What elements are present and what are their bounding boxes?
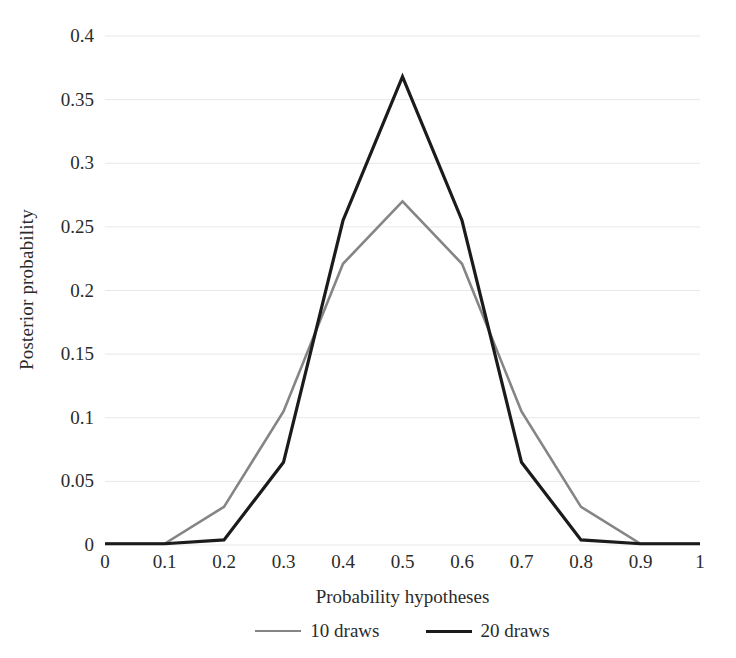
chart-container: Posterior probability 00.050.10.150.20.2… [0,0,736,658]
chart-legend: 10 draws20 draws [105,620,700,642]
series-line [105,201,700,543]
x-tick-label: 0.6 [450,551,474,573]
x-axis-tick-labels: 00.10.20.30.40.50.60.70.80.91 [105,551,700,581]
y-tick-label: 0.4 [0,25,103,47]
y-tick-label: 0 [0,534,103,556]
x-tick-label: 1 [695,551,705,573]
x-tick-label: 0.2 [212,551,236,573]
y-tick-label: 0.1 [0,407,103,429]
x-tick-label: 0.9 [629,551,653,573]
legend-entry[interactable]: 20 draws [426,620,550,642]
x-tick-label: 0.5 [391,551,415,573]
y-tick-label: 0.15 [0,343,103,365]
x-tick-label: 0.7 [510,551,534,573]
x-tick-label: 0.8 [569,551,593,573]
x-tick-label: 0.4 [331,551,355,573]
y-tick-label: 0.25 [0,216,103,238]
legend-line-icon [255,630,301,632]
legend-label: 10 draws [310,620,379,642]
x-axis-title: Probability hypotheses [105,586,700,608]
series-line [105,77,700,544]
y-tick-label: 0.2 [0,280,103,302]
legend-entry[interactable]: 10 draws [255,620,379,642]
legend-line-icon [426,630,472,633]
x-tick-label: 0 [100,551,110,573]
x-tick-label: 0.1 [153,551,177,573]
y-tick-label: 0.05 [0,470,103,492]
legend-label: 20 draws [481,620,550,642]
y-axis-tick-labels: 00.050.10.150.20.250.30.350.4 [0,0,103,658]
plot-area [105,36,700,545]
y-tick-label: 0.3 [0,152,103,174]
y-tick-label: 0.35 [0,89,103,111]
plot-svg [105,36,700,545]
x-tick-label: 0.3 [272,551,296,573]
